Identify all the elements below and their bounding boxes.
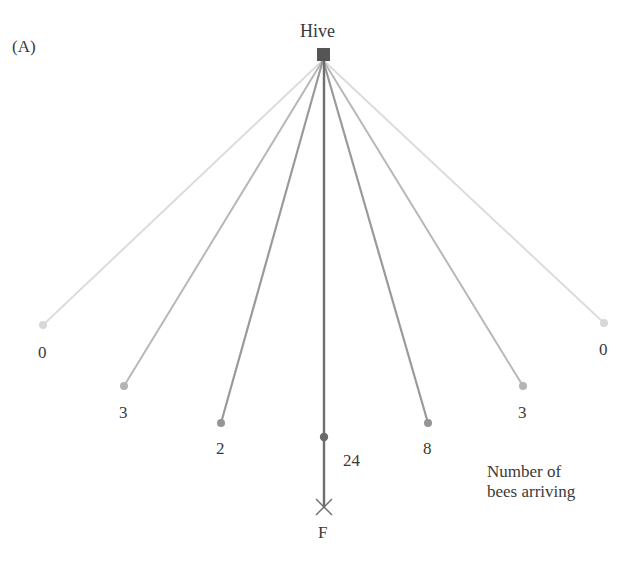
legend-line-2: bees arriving bbox=[487, 482, 575, 502]
feeder-label: F bbox=[318, 524, 327, 541]
ray-far-left bbox=[43, 60, 323, 325]
hive-label: Hive bbox=[300, 22, 335, 40]
panel-label: (A) bbox=[12, 38, 36, 55]
station-dot-left bbox=[120, 382, 128, 390]
station-dot-right bbox=[519, 382, 527, 390]
count-right: 3 bbox=[518, 404, 527, 421]
count-mid-right: 8 bbox=[423, 440, 432, 457]
station-dot-mid-left bbox=[217, 419, 225, 427]
count-center: 24 bbox=[343, 452, 360, 469]
station-dot-far-left bbox=[39, 321, 47, 329]
ray-right bbox=[323, 60, 523, 386]
ray-left bbox=[124, 60, 323, 386]
legend-line-1: Number of bbox=[487, 462, 575, 482]
station-dot-mid-right bbox=[424, 419, 432, 427]
count-far-left: 0 bbox=[38, 344, 47, 361]
count-mid-left: 2 bbox=[216, 440, 225, 457]
ray-mid-left bbox=[221, 60, 323, 423]
ray-mid-right bbox=[323, 60, 428, 423]
station-dot-center bbox=[320, 433, 328, 441]
ray-far-right bbox=[323, 60, 604, 323]
count-left: 3 bbox=[119, 404, 128, 421]
station-dot-far-right bbox=[600, 319, 608, 327]
hive-icon bbox=[317, 48, 330, 61]
count-far-right: 0 bbox=[599, 341, 608, 358]
legend-label: Number of bees arriving bbox=[487, 462, 575, 502]
